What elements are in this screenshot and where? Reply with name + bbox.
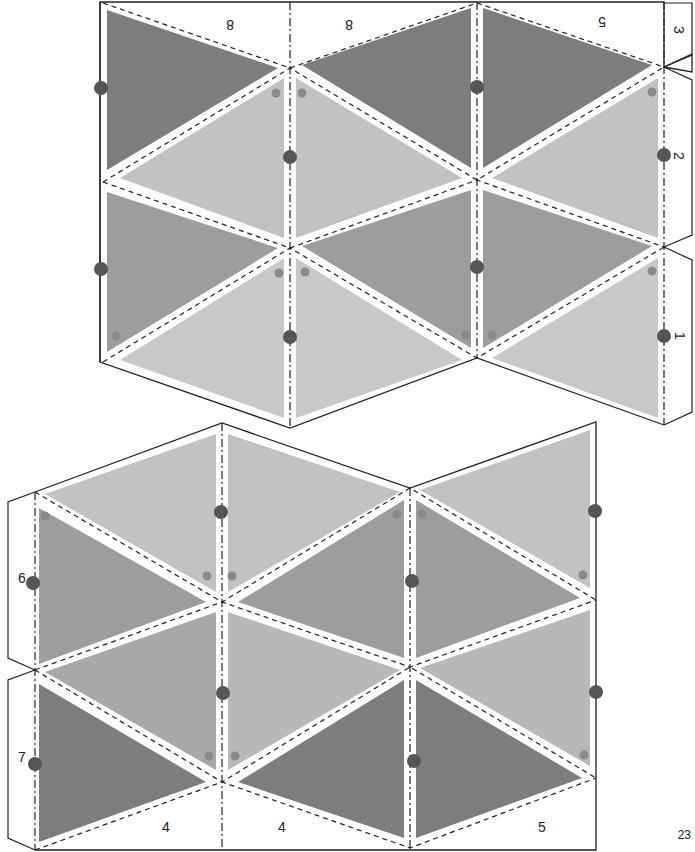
tab-label-6: 6 <box>18 570 26 586</box>
tab-label-1: 1 <box>672 332 688 340</box>
bottom-net-piece: 6 7 4 4 5 <box>8 422 603 850</box>
top-net-piece: 8 8 5 3 2 1 <box>94 2 692 428</box>
tab-3 <box>664 3 692 67</box>
tab-label-8a: 8 <box>226 17 234 33</box>
page-number: 23 <box>678 828 691 842</box>
tab-label-3: 3 <box>671 26 687 34</box>
papercraft-net: 8 8 5 3 2 1 <box>0 0 695 852</box>
tab-label-8b: 8 <box>345 17 353 33</box>
tab-label-5b: 5 <box>538 819 546 835</box>
tab-label-7: 7 <box>18 749 26 765</box>
tab-label-2: 2 <box>671 152 687 160</box>
tab-label-4a: 4 <box>162 819 170 835</box>
tab-label-5: 5 <box>598 14 606 30</box>
tab-label-4b: 4 <box>278 819 286 835</box>
